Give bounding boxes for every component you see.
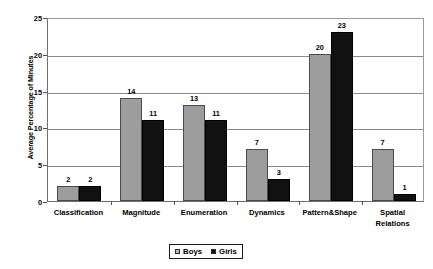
y-axis-tick-label: 20 <box>2 50 42 59</box>
bar-girls-dynamics <box>268 179 290 201</box>
bar-value-label: 2 <box>73 175 107 184</box>
x-axis-tick-mark <box>299 201 300 205</box>
bar-girls-pattern-shape <box>331 32 353 201</box>
legend-item-boys: Boys <box>175 247 202 256</box>
x-axis-category-label: Pattern&Shape <box>298 208 361 219</box>
bar-chart: Average Percentage of Minutes 0510152025… <box>0 0 433 269</box>
gridline <box>48 56 423 57</box>
legend-swatch-boys-icon <box>175 249 180 254</box>
y-axis-tick-label: 5 <box>2 161 42 170</box>
x-axis-category-label: Classification <box>47 208 110 219</box>
bar-girls-spatial-relations <box>394 194 416 201</box>
bar-value-label: 11 <box>199 109 233 118</box>
x-axis-tick-mark <box>111 201 112 205</box>
legend-label-boys: Boys <box>183 247 202 256</box>
gridline <box>48 129 423 130</box>
bar-boys-classification <box>57 186 79 201</box>
bar-value-label: 11 <box>136 109 170 118</box>
legend-swatch-girls-icon <box>211 249 216 254</box>
gridline <box>48 166 423 167</box>
bar-value-label: 23 <box>325 21 359 30</box>
x-axis-category-label: Spatial Relations <box>361 208 424 229</box>
y-axis-title: Average Percentage of Minutes <box>26 15 35 201</box>
bar-girls-classification <box>79 186 101 201</box>
bar-value-label: 13 <box>177 94 211 103</box>
x-axis-tick-mark <box>362 201 363 205</box>
bar-value-label: 1 <box>388 183 422 192</box>
bar-girls-magnitude <box>142 120 164 201</box>
chart-legend: Boys Girls <box>169 244 243 259</box>
bar-value-label: 14 <box>114 87 148 96</box>
bar-boys-pattern-shape <box>309 54 331 201</box>
plot-area: 221411131173202371 <box>47 18 424 202</box>
x-axis-category-label: Magnitude <box>110 208 173 219</box>
x-axis-category-label: Dynamics <box>236 208 299 219</box>
x-axis-tick-mark <box>237 201 238 205</box>
y-axis-tick-label: 25 <box>2 14 42 23</box>
bar-girls-enumeration <box>205 120 227 201</box>
bar-value-label: 7 <box>240 138 274 147</box>
x-axis-tick-mark <box>174 201 175 205</box>
y-axis-tick-label: 15 <box>2 87 42 96</box>
bar-boys-enumeration <box>183 105 205 201</box>
x-axis-category-label: Enumeration <box>173 208 236 219</box>
legend-item-girls: Girls <box>211 247 237 256</box>
y-axis-tick-mark <box>43 202 47 203</box>
y-axis-tick-label: 10 <box>2 124 42 133</box>
y-axis-tick-label: 0 <box>2 198 42 207</box>
bar-boys-spatial-relations <box>372 149 394 201</box>
legend-label-girls: Girls <box>219 247 237 256</box>
gridline <box>48 93 423 94</box>
bar-value-label: 3 <box>262 168 296 177</box>
bar-value-label: 7 <box>366 138 400 147</box>
